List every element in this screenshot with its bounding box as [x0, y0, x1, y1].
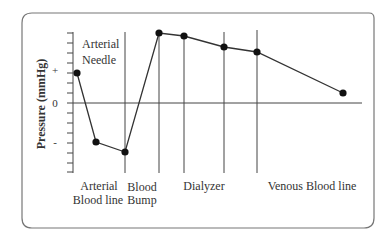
point-pump-outlet — [155, 29, 162, 36]
x-label-arterial-blood-line-l1: Arterial — [80, 179, 118, 193]
x-label-arterial-blood-line-l2: Blood line — [73, 193, 123, 207]
x-label-venous-blood-line: Venous Blood line — [268, 179, 357, 193]
pressure-chart: Pressure (mmHg) + 0 - Arterial Needle Ar… — [0, 0, 391, 233]
point-arterial-needle — [73, 69, 80, 76]
x-label-dialyzer: Dialyzer — [183, 179, 224, 193]
point-venous-line — [253, 48, 260, 55]
x-label-blood-bump-l1: Blood — [127, 180, 156, 194]
tick-label-plus: + — [52, 64, 58, 76]
x-label-blood-bump-l2: Bump — [127, 193, 156, 207]
y-axis-label: Pressure (mmHg) — [34, 59, 48, 150]
point-pump-inlet — [121, 148, 128, 155]
annotation-arterial-needle-l1: Arterial — [82, 37, 120, 51]
point-dialyzer-outlet — [220, 43, 227, 50]
tick-label-minus: - — [53, 136, 57, 148]
annotation-arterial-needle-l2: Needle — [82, 53, 116, 67]
tick-label-zero: 0 — [52, 97, 58, 109]
point-venous-needle — [339, 89, 346, 96]
point-arterial-line — [92, 138, 99, 145]
point-dialyzer-inlet — [180, 32, 187, 39]
